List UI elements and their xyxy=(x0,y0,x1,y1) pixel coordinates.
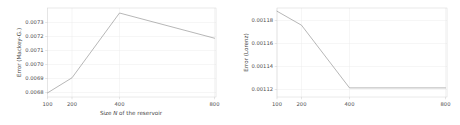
y-ticklabel: 0.0068 xyxy=(25,89,43,95)
y-ticklabel: 0.0071 xyxy=(25,47,43,53)
x-tickmarks-right xyxy=(277,97,446,99)
data-line-lorenz xyxy=(277,11,446,88)
y-tickmarks-right xyxy=(275,21,277,90)
y-ticklabel: 0.0073 xyxy=(25,19,43,25)
x-ticklabel: 200 xyxy=(297,101,307,107)
y-ticklabel: 0.0070 xyxy=(25,61,43,67)
x-ticklabel: 400 xyxy=(115,101,125,107)
x-axis-title-post: of the reservoir xyxy=(117,110,162,116)
x-ticklabel: 400 xyxy=(345,101,355,107)
x-ticklabels-left: 100 200 400 800 xyxy=(43,101,220,107)
y-ticklabel: 0.00118 xyxy=(252,17,273,23)
y-gridlines-left xyxy=(48,23,217,93)
x-ticklabels-right: 100 200 400 800 xyxy=(272,101,450,107)
y-ticklabel: 0.00114 xyxy=(252,63,274,69)
x-ticklabel: 800 xyxy=(210,101,220,107)
plot-frame-left xyxy=(48,8,217,97)
y-ticklabels-right: 0.00112 0.00114 0.00116 0.00118 xyxy=(252,17,274,92)
x-ticklabel: 200 xyxy=(67,101,77,107)
chart-svg-right: 0.00112 0.00114 0.00116 0.00118 100 200 … xyxy=(230,0,460,125)
x-tickmarks-left xyxy=(48,97,215,99)
y-axis-title-left: Error (Mackey-G.) xyxy=(16,28,23,77)
x-ticklabel: 100 xyxy=(43,101,53,107)
chart-svg-left: 0.0068 0.0069 0.0070 0.0071 0.0072 0.007… xyxy=(0,0,230,125)
figure-two-panel-error-plots: 0.0068 0.0069 0.0070 0.0071 0.0072 0.007… xyxy=(0,0,460,125)
x-axis-title-left: Size N of the reservoir xyxy=(100,110,163,116)
y-ticklabel: 0.00116 xyxy=(252,40,273,46)
x-ticklabel: 800 xyxy=(441,101,451,107)
x-gridlines-right xyxy=(277,8,446,97)
y-axis-title-right: Error (Lorenz) xyxy=(243,33,249,71)
plot-frame-right xyxy=(277,8,447,97)
y-ticklabel: 0.0072 xyxy=(25,33,43,39)
y-ticklabels-left: 0.0068 0.0069 0.0070 0.0071 0.0072 0.007… xyxy=(25,19,43,95)
y-ticklabel: 0.00112 xyxy=(252,86,273,92)
x-ticklabel: 100 xyxy=(272,101,282,107)
chart-panel-lorenz: 0.00112 0.00114 0.00116 0.00118 100 200 … xyxy=(230,0,460,125)
y-ticklabel: 0.0069 xyxy=(25,75,43,81)
x-gridlines-left xyxy=(48,8,215,97)
y-tickmarks-left xyxy=(45,23,47,93)
y-gridlines-right xyxy=(277,21,447,90)
x-axis-title-pre: Size xyxy=(100,110,113,116)
chart-panel-mackey-glass: 0.0068 0.0069 0.0070 0.0071 0.0072 0.007… xyxy=(0,0,230,125)
data-line-mackey-glass xyxy=(48,13,215,93)
